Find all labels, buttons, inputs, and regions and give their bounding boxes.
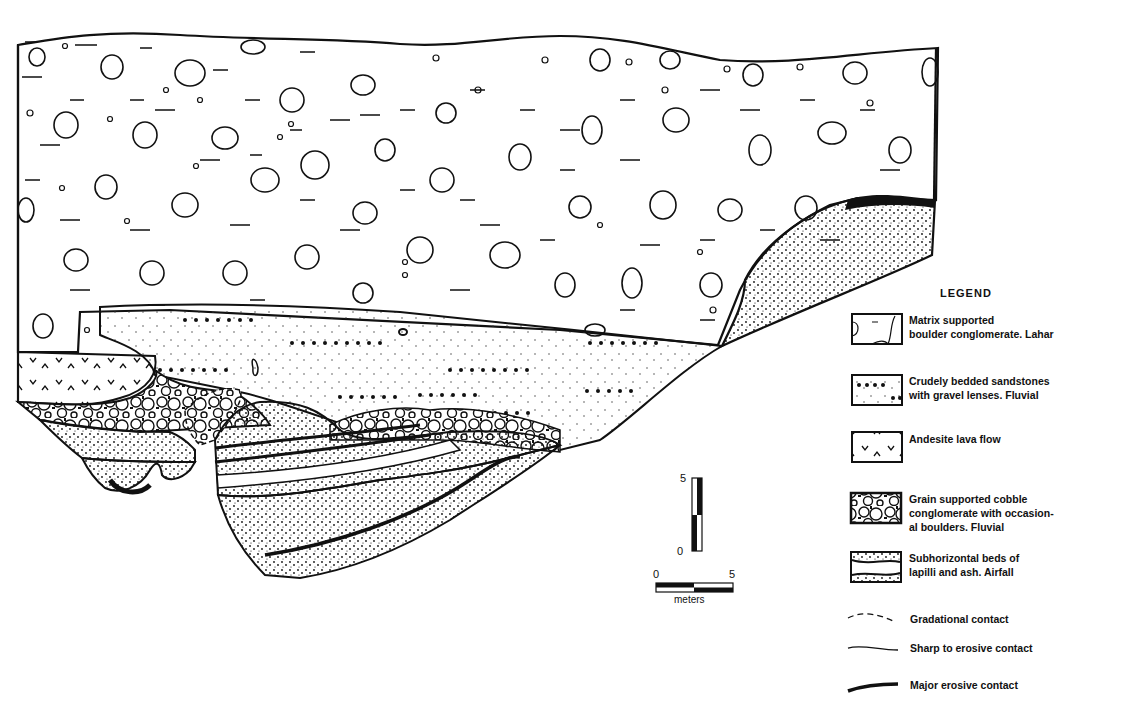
vertical-scale-bottom: 0 — [677, 545, 683, 557]
legend-swatch-airfall — [851, 552, 901, 582]
horizontal-scale-right: 5 — [729, 568, 735, 580]
legend-line-major — [848, 684, 898, 691]
legend-label-andesite: Andesite lava flow — [909, 432, 1001, 446]
legend-label-sharp: Sharp to erosive contact — [910, 641, 1033, 655]
vertical-scale-top: 5 — [680, 472, 686, 484]
legend-label-airfall: Subhorizontal beds of lapilli and ash. A… — [909, 551, 1019, 579]
legend-label-lahar: Matrix supported boulder conglomerate. L… — [909, 313, 1054, 341]
horizontal-scale-left: 0 — [653, 568, 659, 580]
scale-unit-label: meters — [674, 594, 705, 605]
legend-swatch-andesite — [852, 432, 902, 462]
legend-title: LEGEND — [940, 287, 992, 299]
horizontal-scale-bar — [656, 583, 733, 592]
legend-line-gradational — [848, 614, 895, 622]
legend-label-fluvial-sandstone: Crudely bedded sandstones with gravel le… — [909, 374, 1050, 402]
legend-label-major: Major erosive contact — [910, 678, 1018, 692]
vertical-scale-bar — [692, 478, 702, 551]
legend-label-cobble-conglomerate: Grain supported cobble conglomerate with… — [909, 492, 1054, 534]
legend-label-gradational: Gradational contact — [910, 612, 1009, 626]
legend-swatches — [848, 314, 902, 691]
legend-swatch-cobble-conglomerate — [851, 493, 901, 523]
legend-line-sharp — [848, 647, 898, 650]
legend-swatch-fluvial-sandstone — [852, 375, 902, 405]
legend-swatch-lahar — [852, 314, 902, 344]
